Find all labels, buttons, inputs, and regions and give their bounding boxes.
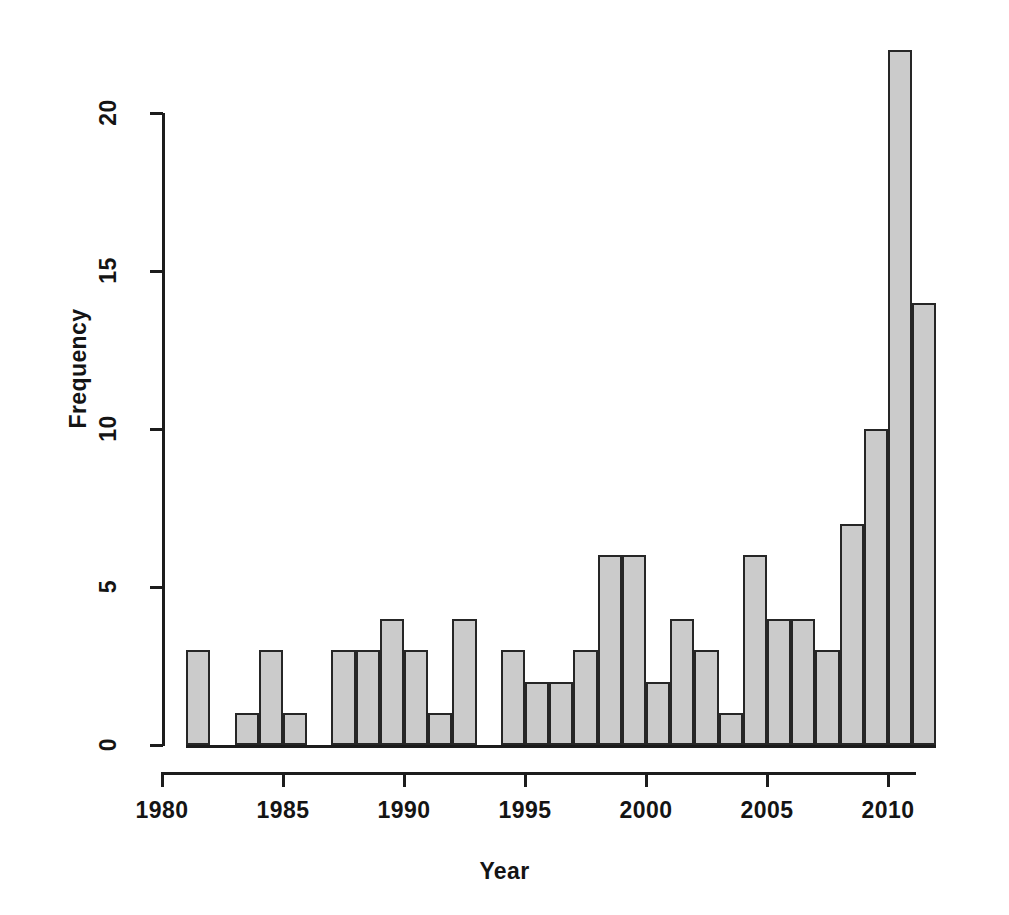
histogram-bar [670,619,694,745]
x-axis-tick [645,772,648,787]
x-axis-tick-label: 2000 [601,797,691,824]
x-axis-tick-label: 1990 [359,797,449,824]
x-axis-tick-label: 2010 [843,797,933,824]
plot-area [0,0,1009,915]
histogram-bar [791,619,815,745]
x-axis-tick [887,772,890,787]
histogram-bar [452,619,476,745]
histogram-bar [283,713,307,745]
histogram-bar [646,682,670,745]
histogram-bar [525,682,549,745]
histogram-bar [598,555,622,745]
histogram-bar [719,713,743,745]
baseline [186,745,936,748]
histogram-bar [840,524,864,745]
x-axis-tick [524,772,527,787]
histogram-bar [864,429,888,745]
histogram-bar [694,650,718,745]
histogram-bar [888,50,912,745]
x-axis-tick [161,772,164,787]
histogram-bar [235,713,259,745]
histogram-bar [331,650,355,745]
x-axis-tick-label: 1980 [117,797,207,824]
histogram-bar [428,713,452,745]
histogram-bar [501,650,525,745]
x-axis-tick [766,772,769,787]
histogram-bar [573,650,597,745]
histogram-figure: 05101520 Frequency 198019851990199520002… [0,0,1009,915]
x-axis-tick-label: 1995 [480,797,570,824]
x-axis-tick [403,772,406,787]
x-axis-tick-label: 1985 [238,797,328,824]
x-axis-tick [282,772,285,787]
histogram-bar [404,650,428,745]
histogram-bar [186,650,210,745]
histogram-bar [743,555,767,745]
histogram-bar [815,650,839,745]
histogram-bar [356,650,380,745]
histogram-bar [622,555,646,745]
histogram-bar [259,650,283,745]
x-axis-tick-label: 2005 [722,797,812,824]
histogram-bar [549,682,573,745]
x-axis-title: Year [0,858,1009,885]
histogram-bar [380,619,404,745]
x-axis-line [162,772,916,775]
histogram-bar [767,619,791,745]
histogram-bar [912,303,936,745]
